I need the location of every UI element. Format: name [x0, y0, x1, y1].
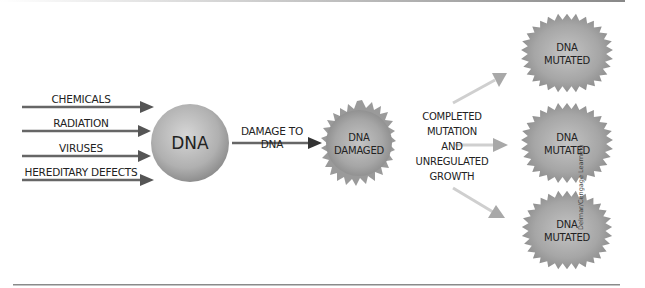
mutated-node-1-label: DNA MUTATED: [527, 41, 607, 67]
mutated-3-line1: DNA: [527, 218, 607, 231]
damage-label: DAMAGE TO DNA: [232, 125, 312, 151]
damaged-line2: DAMAGED: [324, 144, 394, 157]
mutated-2-line2: MUTATED: [527, 144, 607, 157]
damage-label-line2: DNA: [232, 138, 312, 151]
mutated-2-line1: DNA: [527, 131, 607, 144]
cause-hereditary-defects: HEREDITARY DEFECTS: [18, 166, 144, 178]
mutated-node-3-label: DNA MUTATED: [527, 218, 607, 244]
damaged-line1: DNA: [324, 131, 394, 144]
process-line1: COMPLETED: [407, 109, 497, 124]
cause-viruses: VIRUSES: [22, 142, 140, 154]
top-rule: [0, 0, 625, 2]
cause-radiation: RADIATION: [22, 117, 140, 129]
damaged-node-label: DNA DAMAGED: [324, 131, 394, 157]
mutated-3-line2: MUTATED: [527, 231, 607, 244]
mutated-node-2-label: DNA MUTATED: [527, 131, 607, 157]
process-label: COMPLETED MUTATION AND UNREGULATED GROWT…: [407, 109, 497, 184]
process-line5: GROWTH: [407, 169, 497, 184]
credit-text: Delmar/Cengage Learning: [577, 130, 585, 230]
bottom-rule: [13, 284, 620, 286]
mutated-1-line1: DNA: [527, 41, 607, 54]
process-line2: MUTATION: [407, 124, 497, 139]
mutated-1-line2: MUTATED: [527, 54, 607, 67]
process-line4: UNREGULATED: [407, 154, 497, 169]
dna-node-label: DNA: [151, 133, 229, 153]
process-line3: AND: [407, 139, 497, 154]
damage-label-line1: DAMAGE TO: [232, 125, 312, 138]
cause-chemicals: CHEMICALS: [22, 93, 140, 105]
